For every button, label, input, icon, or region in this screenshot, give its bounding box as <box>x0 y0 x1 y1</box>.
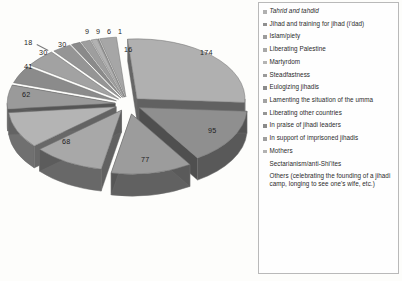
legend-item-label: In support of imprisoned jihadis <box>270 134 359 141</box>
legend-swatch-icon <box>263 99 267 103</box>
pie-slices <box>0 0 258 210</box>
legend-item-label: In praise of jihadi leaders <box>270 121 341 128</box>
legend-item-label: Lamenting the situation of the umma <box>270 96 374 103</box>
legend-item[interactable]: In praise of jihadi leaders <box>263 121 395 128</box>
legend-item[interactable]: Martyrdom <box>263 58 395 65</box>
legend-swatch-icon <box>263 35 267 39</box>
chart-legend: Tahrid and tahdidJihad and training for … <box>258 2 399 274</box>
legend-item[interactable]: Mothers <box>263 147 395 154</box>
pie-chart-figure: 1749577686241303018996116 Tahrid and tah… <box>0 0 402 281</box>
legend-swatch-icon <box>263 48 267 52</box>
legend-item-label: Islam/piety <box>270 32 301 39</box>
legend-item-label: Mothers <box>270 147 293 154</box>
pie-data-label: 30 <box>58 40 66 49</box>
legend-item[interactable]: Sectarianism/anti-Shi'ites <box>263 160 395 167</box>
legend-item[interactable]: Jihad and training for jihad (i'dad) <box>263 20 395 27</box>
legend-item-label: Others (celebrating the founding of a ji… <box>270 172 396 187</box>
legend-item-label: Steadfastness <box>270 71 311 78</box>
legend-swatch-icon <box>263 137 267 141</box>
legend-item-label: Sectarianism/anti-Shi'ites <box>270 160 342 167</box>
legend-swatch-icon <box>263 86 267 90</box>
pie-data-label: 6 <box>107 27 111 36</box>
pie-data-label: 1 <box>118 27 122 36</box>
pie-data-label: 95 <box>208 126 216 135</box>
legend-item[interactable]: Liberating other countries <box>263 109 395 116</box>
legend-swatch-icon <box>263 74 267 78</box>
legend-swatch-icon <box>263 61 267 65</box>
legend-item-label: Eulogizing jihadis <box>270 83 320 90</box>
legend-swatch-icon <box>263 175 267 179</box>
legend-item[interactable]: In support of imprisoned jihadis <box>263 134 395 141</box>
legend-swatch-icon <box>263 23 267 27</box>
legend-swatch-icon <box>263 112 267 116</box>
pie-data-label: 9 <box>85 27 89 36</box>
pie-data-label: 18 <box>24 38 32 47</box>
legend-item[interactable]: Others (celebrating the founding of a ji… <box>263 172 395 187</box>
pie-data-label: 68 <box>62 137 70 146</box>
pie-3d-stage: 1749577686241303018996116 <box>0 0 258 210</box>
legend-item[interactable]: Tahrid and tahdid <box>263 7 395 14</box>
legend-item-label: Liberating Palestine <box>270 45 326 52</box>
pie-data-label: 16 <box>124 45 132 54</box>
legend-swatch-icon <box>263 10 267 14</box>
pie-data-label: 174 <box>200 48 213 57</box>
legend-swatch-icon <box>263 150 267 154</box>
pie-data-label: 62 <box>22 90 30 99</box>
legend-item-label: Martyrdom <box>270 58 301 65</box>
legend-item[interactable]: Lamenting the situation of the umma <box>263 96 395 103</box>
legend-item[interactable]: Steadfastness <box>263 71 395 78</box>
legend-item[interactable]: Liberating Palestine <box>263 45 395 52</box>
legend-item-label: Tahrid and tahdid <box>270 7 319 14</box>
pie-data-label: 9 <box>96 27 100 36</box>
legend-swatch-icon <box>263 163 267 167</box>
legend-item[interactable]: Islam/piety <box>263 32 395 39</box>
pie-data-label: 41 <box>24 62 32 71</box>
legend-item-label: Jihad and training for jihad (i'dad) <box>270 20 365 27</box>
legend-item-label: Liberating other countries <box>270 109 342 116</box>
pie-chart-plot-area: 1749577686241303018996116 <box>0 0 258 281</box>
pie-slice-top[interactable] <box>128 39 245 103</box>
legend-item[interactable]: Eulogizing jihadis <box>263 83 395 90</box>
legend-swatch-icon <box>263 124 267 128</box>
pie-data-label: 77 <box>141 155 149 164</box>
